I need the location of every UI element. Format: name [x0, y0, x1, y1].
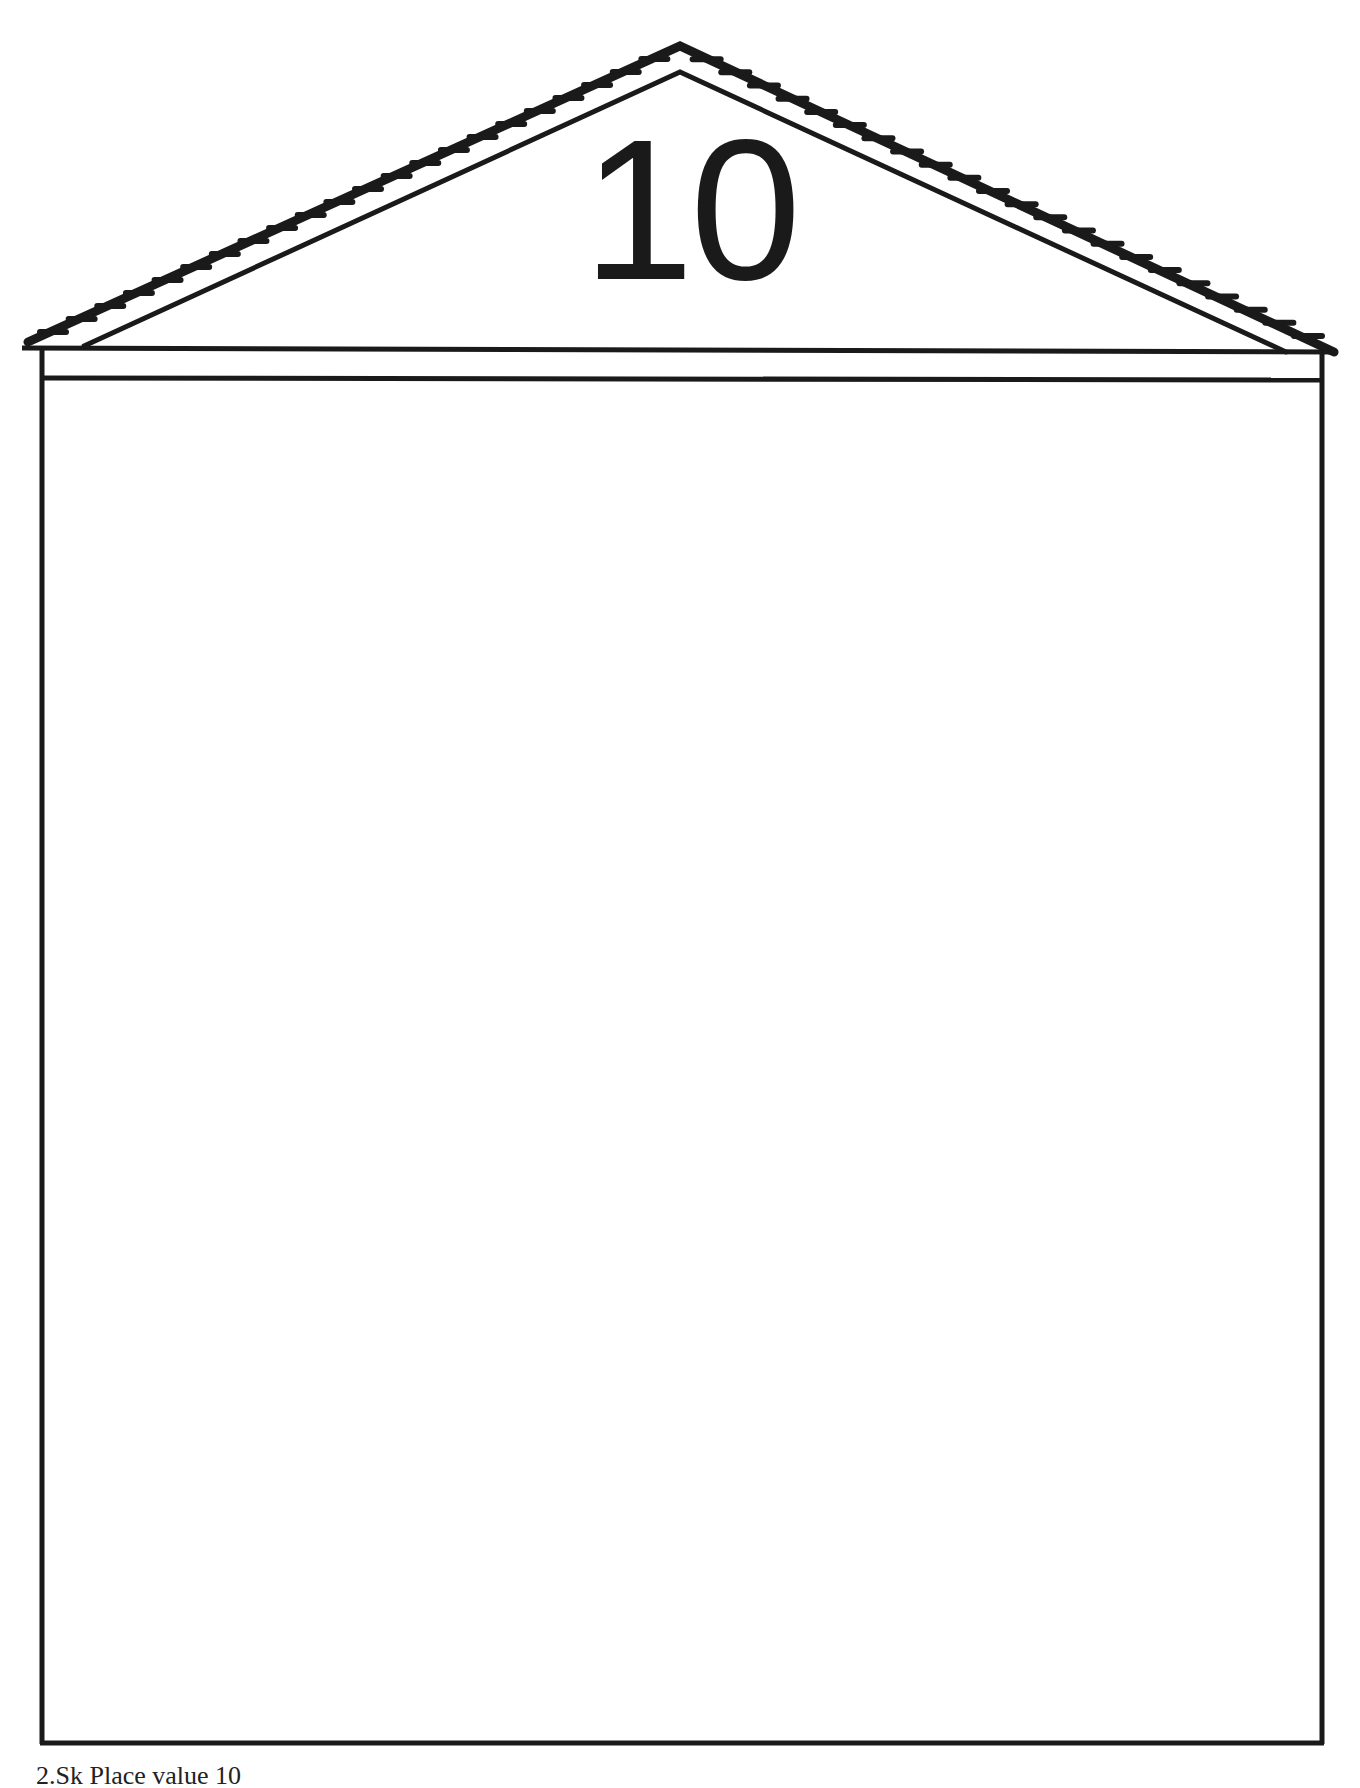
house-number: 10	[540, 110, 840, 310]
wall-band-line	[42, 378, 1322, 380]
eave-line	[22, 348, 1336, 352]
page-caption: 2.Sk Place value 10	[36, 1761, 241, 1788]
house-body	[22, 348, 1336, 1744]
